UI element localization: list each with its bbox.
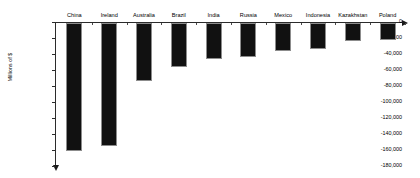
bar [275, 23, 291, 51]
y-axis-tick-label: -40,000 [384, 51, 402, 56]
x-axis-tick [301, 23, 302, 25]
bar [101, 23, 117, 146]
category-label: Indonesia [306, 12, 330, 18]
bar [171, 23, 187, 67]
x-axis-tick [161, 23, 162, 25]
bar [240, 23, 256, 57]
bar [66, 23, 82, 151]
category-label: India [208, 12, 220, 18]
x-axis-tick [370, 23, 371, 25]
category-label: Brazil [172, 12, 186, 18]
category-label: China [67, 12, 82, 18]
x-axis-tick [127, 23, 128, 25]
y-axis-tick [52, 150, 55, 151]
y-axis-tick-label: -100,000 [381, 99, 402, 104]
y-axis-tick-label: -80,000 [384, 83, 402, 88]
y-axis-tick [52, 86, 55, 87]
bar [206, 23, 222, 59]
bar-chart: Millions of $ 0-20,000-40,000-60,000-80,… [0, 0, 420, 178]
category-label: Australia [133, 12, 155, 18]
y-axis-tick [52, 118, 55, 119]
y-axis-tick-label: -160,000 [381, 147, 402, 152]
y-axis-tick-label: -120,000 [381, 115, 402, 120]
y-axis-tick [52, 54, 55, 55]
y-axis-tick [52, 70, 55, 71]
bar [345, 23, 361, 41]
x-axis-tick [92, 23, 93, 25]
category-label: Kazakhstan [338, 12, 367, 18]
bar [136, 23, 152, 81]
y-axis-tick [52, 166, 55, 167]
category-label: Poland [379, 12, 396, 18]
y-axis-tick-label: 0 [399, 19, 402, 24]
category-label: Ireland [101, 12, 118, 18]
y-axis-tick-label: -180,000 [381, 163, 402, 168]
category-label: Mexico [274, 12, 292, 18]
plot-area: 0-20,000-40,000-60,000-80,000-100,000-12… [55, 22, 407, 166]
y-axis-title: Millions of $ [7, 35, 13, 99]
y-axis-tick [52, 102, 55, 103]
y-axis-tick [52, 22, 55, 23]
bar [380, 23, 396, 40]
x-axis-tick [405, 23, 406, 25]
x-axis-tick [196, 23, 197, 25]
y-axis-line [55, 22, 56, 166]
y-axis-tick [52, 38, 55, 39]
x-axis-tick [335, 23, 336, 25]
x-axis-tick [231, 23, 232, 25]
y-axis-tick [52, 134, 55, 135]
bar [310, 23, 326, 49]
y-axis-tick-label: -60,000 [384, 67, 402, 72]
y-axis-tick-label: -140,000 [381, 131, 402, 136]
x-axis-tick [266, 23, 267, 25]
category-label: Russia [240, 12, 257, 18]
